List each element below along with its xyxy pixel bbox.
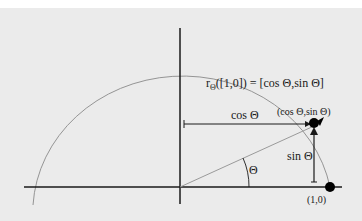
rotated-point-label: (cos Θ,sin Θ): [277, 106, 331, 118]
theta-label: Θ: [249, 163, 258, 177]
unit-point: [325, 182, 335, 192]
rotated-point: [309, 118, 319, 128]
formula-label: rΘ([1,0]) = [cos Θ,sin Θ]: [206, 76, 324, 92]
rotation-diagram: rΘ([1,0]) = [cos Θ,sin Θ] cos Θ (cos Θ,s…: [0, 0, 362, 221]
unit-arc: [33, 76, 330, 205]
sin-arrow-head: [310, 127, 318, 135]
unit-point-label: (1,0): [307, 194, 326, 206]
sin-label: sin Θ: [287, 149, 313, 163]
cos-label: cos Θ: [231, 108, 259, 122]
